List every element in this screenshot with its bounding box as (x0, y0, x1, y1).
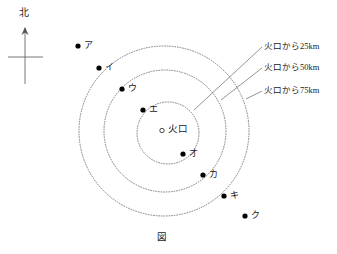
north-label: 北 (19, 8, 29, 18)
crater-marker-icon (160, 128, 164, 132)
point-ki-dot (221, 193, 226, 198)
point-a-dot (75, 43, 80, 48)
ring-label-25km: 火口から25km (264, 42, 319, 51)
crater-label: 火口 (168, 125, 188, 135)
leader-line-75km (246, 91, 262, 99)
point-ka-label: カ (209, 170, 218, 179)
north-arrow-icon (8, 27, 43, 84)
point-u-dot (119, 86, 124, 91)
point-e-dot (140, 107, 145, 112)
volcano-hazard-figure: 北 火口 火口から25km 火口から50km 火口から75km ア イ ウ エ … (0, 0, 337, 254)
figure-caption: 図 (157, 233, 167, 243)
point-o-label: オ (189, 149, 198, 158)
ring-label-75km: 火口から75km (264, 86, 319, 95)
point-ku-label: ク (251, 211, 260, 220)
point-o-dot (180, 151, 185, 156)
point-ka-dot (200, 172, 205, 177)
point-ki-label: キ (230, 191, 239, 200)
point-i-label: イ (105, 63, 114, 72)
point-ku-dot (242, 213, 247, 218)
point-e-label: エ (149, 105, 158, 114)
ring-label-50km: 火口から50km (264, 63, 319, 72)
leader-line-50km (221, 68, 262, 100)
point-u-label: ウ (128, 84, 137, 93)
point-a-label: ア (84, 41, 93, 50)
point-i-dot (96, 65, 101, 70)
